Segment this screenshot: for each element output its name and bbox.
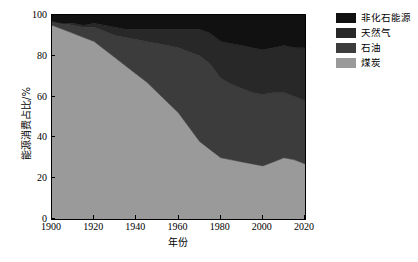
- legend-item: 非化石能源: [336, 11, 418, 25]
- y-tick-label: 80: [4, 49, 47, 60]
- x-tick-label: 1960: [168, 221, 188, 232]
- y-axis-title: 能源消费占比/%: [18, 69, 33, 179]
- legend-swatch: [336, 43, 356, 53]
- x-tick-label: 1980: [210, 221, 230, 232]
- legend-swatch: [336, 58, 356, 68]
- x-tick-mark: [93, 215, 94, 219]
- legend-swatch: [336, 13, 356, 23]
- x-tick-label: 1940: [125, 221, 145, 232]
- y-tick-mark: [51, 136, 55, 137]
- x-tick-label: 1900: [41, 221, 61, 232]
- y-tick-mark: [51, 96, 55, 97]
- legend-item: 石油: [336, 41, 418, 55]
- legend-item: 煤炭: [336, 56, 418, 70]
- stacked-area-svg: [52, 15, 305, 219]
- x-tick-mark: [262, 215, 263, 219]
- x-tick-label: 1920: [83, 221, 103, 232]
- x-tick-mark: [220, 215, 221, 219]
- x-tick-label: 2000: [252, 221, 272, 232]
- x-tick-mark: [178, 215, 179, 219]
- y-tick-mark: [51, 55, 55, 56]
- legend-label: 非化石能源: [361, 13, 411, 23]
- legend-label: 石油: [361, 43, 381, 53]
- x-tick-mark: [304, 215, 305, 219]
- legend-item: 天然气: [336, 26, 418, 40]
- y-tick-mark: [51, 177, 55, 178]
- y-tick-label: 100: [4, 9, 47, 20]
- x-tick-mark: [135, 215, 136, 219]
- plot-area: [51, 14, 306, 220]
- legend-swatch: [336, 28, 356, 38]
- legend-label: 天然气: [361, 28, 391, 38]
- chart-figure: 020406080100 能源消费占比/% 年份 非化石能源天然气石油煤炭 19…: [0, 0, 418, 262]
- legend: 非化石能源天然气石油煤炭: [336, 11, 418, 71]
- x-axis-title: 年份: [51, 234, 304, 249]
- legend-label: 煤炭: [361, 58, 381, 68]
- x-tick-label: 2020: [294, 221, 314, 232]
- x-tick-mark: [51, 215, 52, 219]
- y-tick-mark: [51, 14, 55, 15]
